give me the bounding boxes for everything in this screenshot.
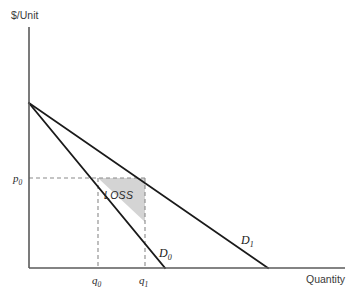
chart-canvas: $/Unit Quantity p0 q0 q1 D0 D1 LOSS <box>0 0 363 292</box>
d0-base: D <box>158 246 168 260</box>
q0-subscript: 0 <box>98 280 102 289</box>
x-tick-label-q0: q0 <box>92 274 102 289</box>
curve-label-d1: D1 <box>240 233 254 249</box>
y-axis-title: $/Unit <box>11 9 39 21</box>
demand-curve-d1 <box>29 103 268 268</box>
curve-label-d0: D0 <box>158 246 172 262</box>
demand-shift-loss-diagram: $/Unit Quantity p0 q0 q1 D0 D1 LOSS <box>0 0 363 292</box>
d1-subscript: 1 <box>250 240 254 249</box>
x-tick-label-q1: q1 <box>139 274 148 289</box>
loss-region-label: LOSS <box>104 189 133 201</box>
d0-subscript: 0 <box>168 253 172 262</box>
q1-subscript: 1 <box>145 280 149 289</box>
d1-base: D <box>240 233 250 247</box>
x-axis-title: Quantity <box>306 273 346 285</box>
y-tick-label-p0: p0 <box>12 172 23 187</box>
p0-subscript: 0 <box>19 178 23 187</box>
